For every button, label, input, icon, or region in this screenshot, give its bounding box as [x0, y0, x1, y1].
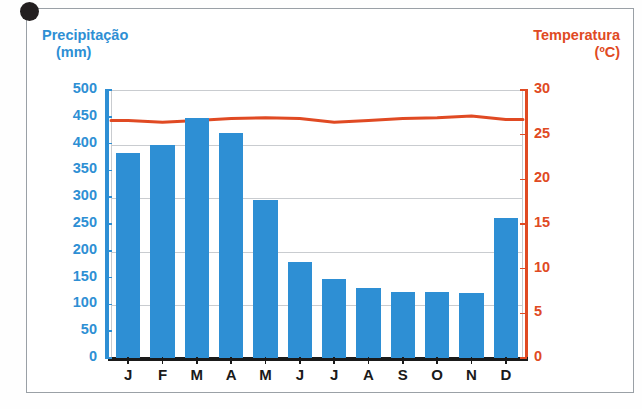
- precipitation-bar: [391, 292, 415, 358]
- temperature-tick-label: 0: [534, 348, 574, 364]
- month-label: J: [317, 366, 351, 383]
- month-tick: [230, 357, 232, 364]
- temperature-tick: [520, 268, 527, 270]
- temperature-tick-label: 30: [534, 80, 574, 96]
- precipitation-bar: [116, 153, 140, 358]
- temperature-tick-label: 15: [534, 214, 574, 230]
- precipitation-bar: [185, 118, 209, 358]
- climograph-figure: ERICSON GUILHERME LUCIANO Precipitação (…: [0, 0, 642, 409]
- month-tick: [368, 357, 370, 364]
- precipitation-tick: [105, 170, 112, 172]
- precipitation-tick-label: 300: [37, 187, 97, 203]
- month-label: F: [146, 366, 180, 383]
- month-tick: [402, 357, 404, 364]
- temperature-tick-label: 20: [534, 169, 574, 185]
- temperature-polyline: [111, 116, 523, 122]
- month-label: A: [214, 366, 248, 383]
- precipitation-tick-label: 150: [37, 268, 97, 284]
- month-tick: [436, 357, 438, 364]
- corner-dot-marker: [20, 2, 39, 21]
- precipitation-bar: [150, 145, 174, 358]
- month-tick: [196, 357, 198, 364]
- precipitation-axis-title: Precipitação (mm): [42, 27, 128, 60]
- month-label: S: [386, 366, 420, 383]
- precipitation-tick-label: 400: [37, 134, 97, 150]
- precipitation-tick-label: 350: [37, 160, 97, 176]
- month-tick: [471, 357, 473, 364]
- precipitation-tick-label: 250: [37, 214, 97, 230]
- precipitation-bar: [494, 218, 518, 358]
- precipitation-bar: [288, 262, 312, 358]
- precipitation-bar: [253, 200, 277, 358]
- temperature-tick-label: 10: [534, 259, 574, 275]
- precipitation-tick-label: 0: [37, 348, 97, 364]
- precipitation-tick: [105, 250, 112, 252]
- precipitation-tick-label: 50: [37, 321, 97, 337]
- precipitation-tick: [105, 330, 112, 332]
- precipitation-tick: [105, 89, 112, 91]
- precipitation-tick: [105, 196, 112, 198]
- temperature-axis-title: Temperatura (ºC): [533, 27, 620, 60]
- month-label: M: [249, 366, 283, 383]
- temperature-tick: [520, 313, 527, 315]
- temperature-tick: [520, 89, 527, 91]
- month-tick: [127, 357, 129, 364]
- month-label: J: [111, 366, 145, 383]
- precipitation-tick: [105, 304, 112, 306]
- precipitation-tick-label: 500: [37, 80, 97, 96]
- precipitation-tick: [105, 223, 112, 225]
- temperature-tick: [520, 357, 527, 359]
- temperature-axis-title-text: Temperatura: [533, 27, 620, 43]
- month-tick: [299, 357, 301, 364]
- precipitation-tick-label: 450: [37, 107, 97, 123]
- month-label: O: [420, 366, 454, 383]
- precipitation-bar: [356, 288, 380, 358]
- precipitation-axis-title-text: Precipitação: [42, 27, 128, 43]
- temperature-tick-label: 5: [534, 303, 574, 319]
- precipitation-bar: [425, 292, 449, 358]
- precipitation-tick: [105, 116, 112, 118]
- month-tick: [162, 357, 164, 364]
- temperature-tick: [520, 223, 527, 225]
- precipitation-tick-label: 100: [37, 294, 97, 310]
- precipitation-bar: [459, 293, 483, 358]
- month-tick: [505, 357, 507, 364]
- temperature-tick: [520, 134, 527, 136]
- month-label: N: [455, 366, 489, 383]
- month-tick: [333, 357, 335, 364]
- precipitation-tick-label: 200: [37, 241, 97, 257]
- month-label: M: [180, 366, 214, 383]
- precipitation-tick: [105, 143, 112, 145]
- month-tick: [265, 357, 267, 364]
- precipitation-tick: [105, 277, 112, 279]
- precipitation-axis-unit: (mm): [42, 44, 128, 61]
- precipitation-bar: [322, 279, 346, 358]
- temperature-axis-unit: (ºC): [533, 44, 620, 61]
- precipitation-tick: [105, 357, 112, 359]
- month-label: A: [352, 366, 386, 383]
- month-label: J: [283, 366, 317, 383]
- month-label: D: [489, 366, 523, 383]
- temperature-tick-label: 25: [534, 125, 574, 141]
- temperature-tick: [520, 179, 527, 181]
- precipitation-bar: [219, 133, 243, 358]
